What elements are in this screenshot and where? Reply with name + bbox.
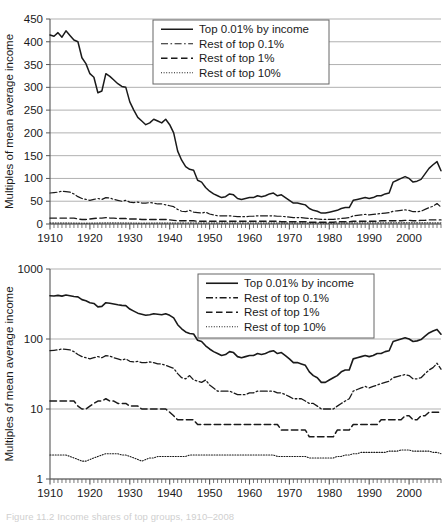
y-tick-label: 100 xyxy=(24,333,43,345)
y-tick-label: 200 xyxy=(24,127,43,139)
x-tick-label: 2000 xyxy=(396,232,422,244)
legend-label-1: Top 0.01% by income xyxy=(244,277,354,289)
y-tick-label: 10 xyxy=(30,403,43,415)
x-tick-label: 1980 xyxy=(316,232,342,244)
y-tick-label: 50 xyxy=(30,195,43,207)
y-tick-label: 400 xyxy=(24,36,43,48)
linear-scale-chart: 0501001502002503003504004501910192019301… xyxy=(0,0,447,252)
log-scale-chart: 1101001000191019201930194019501960197019… xyxy=(0,252,447,508)
linear-chart-svg: 0501001502002503003504004501910192019301… xyxy=(0,0,447,252)
y-axis-title: Multiples of mean average income xyxy=(3,286,15,461)
log-chart-plot-group: 1101001000191019201930194019501960197019… xyxy=(3,263,441,499)
y-tick-label: 150 xyxy=(24,150,43,162)
log-chart-svg: 1101001000191019201930194019501960197019… xyxy=(0,252,447,508)
linear-chart-plot-group: 0501001502002503003504004501910192019301… xyxy=(3,13,441,244)
x-tick-label: 1940 xyxy=(157,232,183,244)
x-tick-label: 1910 xyxy=(37,232,63,244)
y-tick-label: 350 xyxy=(24,59,43,71)
figure-caption: Figure 11.2 Income shares of top groups,… xyxy=(0,511,447,522)
x-tick-label: 1990 xyxy=(356,232,382,244)
y-tick-label: 1000 xyxy=(17,263,43,275)
legend-label-1: Top 0.01% by income xyxy=(199,23,309,35)
legend-label-2: Rest of top 0.1% xyxy=(199,38,284,50)
legend-label-4: Rest of top 10% xyxy=(199,67,281,79)
y-tick-label: 450 xyxy=(24,13,43,25)
x-tick-label: 1950 xyxy=(197,487,223,499)
y-axis-title: Multiples of mean average income xyxy=(3,34,15,209)
series-line-3 xyxy=(50,218,441,223)
y-tick-label: 250 xyxy=(24,104,43,116)
y-tick-label: 100 xyxy=(24,172,43,184)
x-tick-label: 1990 xyxy=(356,487,382,499)
x-tick-label: 1930 xyxy=(117,232,143,244)
legend-label-4: Rest of top 10% xyxy=(244,321,326,333)
x-tick-label: 1970 xyxy=(277,232,303,244)
x-tick-label: 1960 xyxy=(237,487,263,499)
x-tick-label: 1930 xyxy=(117,487,143,499)
series-line-3 xyxy=(50,399,441,437)
x-tick-label: 1950 xyxy=(197,232,223,244)
x-tick-label: 1980 xyxy=(316,487,342,499)
x-tick-label: 1920 xyxy=(77,487,103,499)
legend-label-2: Rest of top 0.1% xyxy=(244,292,329,304)
y-tick-label: 1 xyxy=(37,473,43,485)
figure-container: 0501001502002503003504004501910192019301… xyxy=(0,0,447,523)
x-tick-label: 1970 xyxy=(277,487,303,499)
figure-caption-strip: Figure 11.2 Income shares of top groups,… xyxy=(0,511,447,523)
x-tick-label: 1940 xyxy=(157,487,183,499)
x-tick-label: 2000 xyxy=(396,487,422,499)
x-tick-label: 1910 xyxy=(37,487,63,499)
x-tick-label: 1960 xyxy=(237,232,263,244)
x-tick-label: 1920 xyxy=(77,232,103,244)
y-tick-label: 0 xyxy=(37,218,43,230)
legend-label-3: Rest of top 1% xyxy=(199,52,274,64)
legend-label-3: Rest of top 1% xyxy=(244,306,319,318)
series-line-4 xyxy=(50,450,441,461)
y-tick-label: 300 xyxy=(24,81,43,93)
